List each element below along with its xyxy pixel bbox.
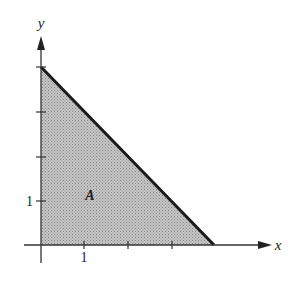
y-tick-label: 1	[26, 194, 33, 209]
x-axis-label: x	[274, 237, 282, 253]
y-axis-label: y	[36, 15, 45, 31]
region-diagram: 1 1 x y A	[0, 0, 288, 285]
y-axis-arrow-icon	[37, 36, 45, 50]
region-label: A	[84, 188, 94, 203]
x-tick-label: 1	[81, 250, 88, 265]
x-axis-arrow-icon	[258, 241, 272, 249]
